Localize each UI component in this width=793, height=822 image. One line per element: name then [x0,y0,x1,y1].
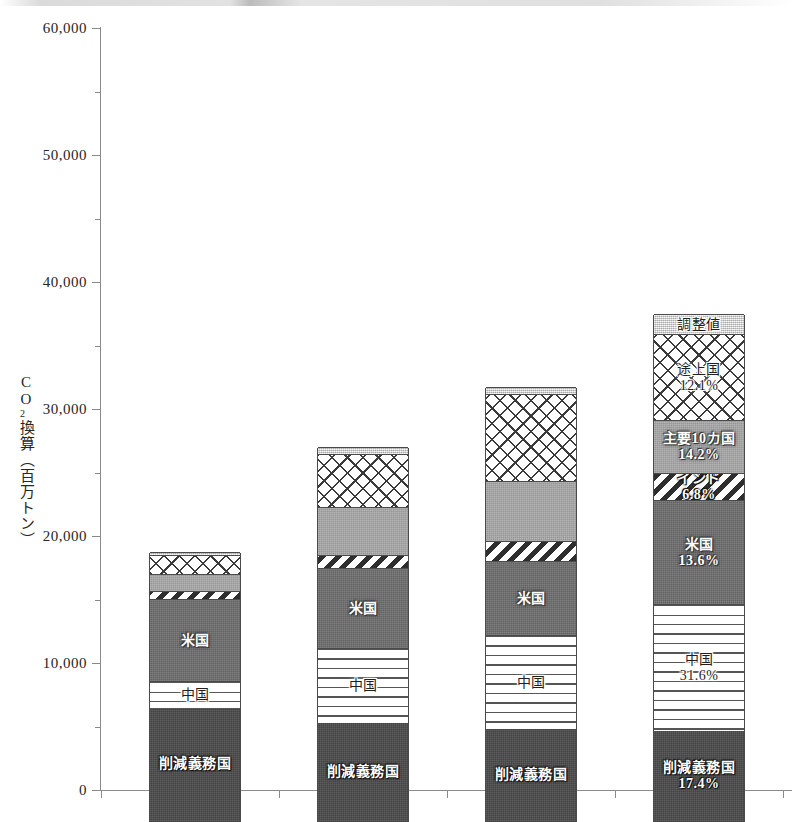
y-tick-mark-minor [95,92,101,93]
bar-segment-2020-中国[interactable]: 中国 [486,635,576,729]
bar-segment-2020-インド[interactable] [486,541,576,561]
y-tick-mark [92,536,101,537]
bar-2020[interactable]: 削減義務国中国米国 [485,388,577,822]
stacked-bar-chart: CO2換算（百万トン） 010,00020,00030,00040,00050,… [0,0,793,822]
segment-name-label: 途上国 [677,362,721,378]
y-tick-mark-minor [95,473,101,474]
x-tick-mark [447,790,448,798]
segment-name-label: 調整値 [677,317,721,333]
segment-name-label: 削減義務国 [327,764,400,780]
bar-2009[interactable]: 削減義務国中国米国 [317,448,409,822]
bar-segment-2030-削減義務国[interactable]: 削減義務国17.4% [654,731,744,821]
segment-percent-label: 13.6% [679,553,720,569]
y-tick-mark [92,663,101,664]
y-tick-mark [92,409,101,410]
segment-name-label: 米国 [517,591,546,607]
bar-segment-2020-主要10カ国[interactable] [486,481,576,541]
bar-segment-2020-調整値[interactable] [486,387,576,394]
segment-percent-label: 6.8% [682,487,716,500]
y-tick-mark-minor [95,600,101,601]
bar-segment-2009-米国[interactable]: 米国 [318,568,408,648]
bar-segment-2009-インド[interactable] [318,555,408,568]
bar-segment-2030-インド[interactable]: インド6.8% [654,473,744,500]
bar-segment-2020-削減義務国[interactable]: 削減義務国 [486,729,576,821]
y-axis-title-text: CO2換算（百万トン） [18,374,34,548]
bar-segment-2009-中国[interactable]: 中国 [318,648,408,723]
bar-segment-1990-インド[interactable] [150,591,240,599]
bar-segment-2030-米国[interactable]: 米国13.6% [654,500,744,604]
bar-segment-2009-調整値[interactable] [318,447,408,454]
bar-segment-2009-削減義務国[interactable]: 削減義務国 [318,723,408,821]
segment-name-label: 主要10カ国 [663,431,736,447]
y-tick-label: 20,000 [43,528,87,545]
bar-segment-2030-途上国[interactable]: 途上国12.1% [654,334,744,420]
y-tick-mark [92,282,101,283]
bar-segment-1990-中国[interactable]: 中国 [150,681,240,708]
bar-segment-1990-米国[interactable]: 米国 [150,599,240,681]
segment-name-label: 中国 [349,678,378,694]
x-tick-mark [101,790,102,798]
segment-name-label: 削減義務国 [159,756,232,772]
segment-name-label: 削減義務国 [495,767,568,783]
segment-name-label: 中国 [517,675,546,691]
bar-1990[interactable]: 削減義務国中国米国 [149,553,241,822]
y-tick-label: 40,000 [43,274,87,291]
segment-name-label: 米国 [181,633,210,649]
y-tick-mark-minor [95,727,101,728]
segment-name-label: 中国 [685,652,714,668]
segment-name-label: 削減義務国 [663,760,736,776]
bar-segment-2030-調整値[interactable]: 調整値 [654,314,744,334]
y-tick-label: 60,000 [43,20,87,37]
y-tick-mark-minor [95,219,101,220]
y-tick-label: 50,000 [43,147,87,164]
x-tick-mark [279,790,280,798]
y-tick-mark-minor [95,346,101,347]
y-tick-mark [92,28,101,29]
y-tick-label: 30,000 [43,401,87,418]
bar-segment-2009-主要10カ国[interactable] [318,507,408,555]
x-tick-mark [783,790,784,798]
segment-percent-label: 31.6% [680,668,719,684]
x-tick-mark [615,790,616,798]
segment-name-label: インド [677,473,721,487]
bar-segment-2009-途上国[interactable] [318,454,408,507]
bar-2030[interactable]: 削減義務国17.4%中国31.6%米国13.6%インド6.8%主要10カ国14.… [653,315,745,822]
y-tick-label: 10,000 [43,655,87,672]
y-axis-title: CO2換算（百万トン） [8,374,34,548]
bar-segment-2020-途上国[interactable] [486,394,576,481]
bar-segment-2020-米国[interactable]: 米国 [486,561,576,635]
bar-segment-1990-調整値[interactable] [150,552,240,555]
segment-percent-label: 14.2% [679,447,720,463]
segment-percent-label: 17.4% [679,776,720,792]
bar-segment-1990-主要10カ国[interactable] [150,574,240,591]
y-tick-mark [92,155,101,156]
bar-segment-1990-削減義務国[interactable]: 削減義務国 [150,708,240,821]
y-tick-mark [92,790,101,791]
segment-percent-label: 12.1% [680,378,719,394]
segment-name-label: 米国 [349,601,378,617]
bar-segment-1990-途上国[interactable] [150,555,240,574]
bar-segment-2030-中国[interactable]: 中国31.6% [654,604,744,731]
y-tick-label: 0 [79,782,87,799]
segment-name-label: 中国 [181,687,210,703]
segment-name-label: 米国 [685,537,714,553]
bar-segment-2030-主要10カ国[interactable]: 主要10カ国14.2% [654,420,744,473]
